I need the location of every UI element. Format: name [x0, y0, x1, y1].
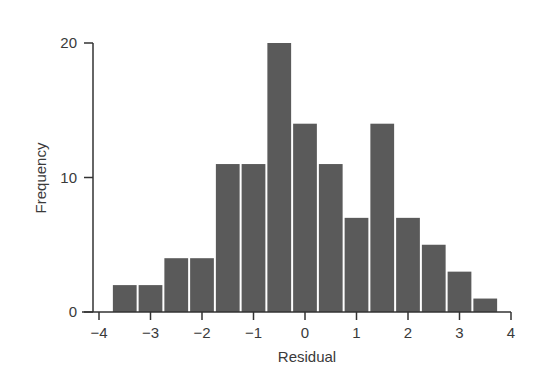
x-axis-title: Residual [278, 348, 336, 365]
x-tick-label: 2 [404, 324, 412, 341]
x-tick-label: 3 [455, 324, 463, 341]
histogram-bar [370, 124, 394, 312]
x-tick-label: −1 [245, 324, 262, 341]
x-tick-label: −4 [90, 324, 107, 341]
histogram-bar [396, 218, 420, 312]
histogram-bar [293, 124, 317, 312]
histogram-bar [216, 164, 240, 312]
histogram-bars [113, 43, 497, 312]
y-axis-title: Frequency [32, 142, 49, 213]
x-tick-label: 1 [352, 324, 360, 341]
histogram-bar [422, 245, 446, 312]
histogram-bar [345, 218, 369, 312]
histogram-bar [319, 164, 343, 312]
x-tick-label: 0 [301, 324, 309, 341]
y-tick-label: 10 [60, 169, 77, 186]
x-tick-label: −2 [193, 324, 210, 341]
histogram-bar [164, 258, 188, 312]
histogram-bar [267, 43, 291, 312]
y-tick-label: 0 [69, 303, 77, 320]
y-ticks: 01020 [60, 34, 93, 320]
histogram-bar [139, 285, 163, 312]
y-tick-label: 20 [60, 34, 77, 51]
histogram-bar [473, 299, 497, 312]
histogram-bar [448, 272, 472, 312]
histogram-chart: 01020 −4−3−2−101234 Residual Frequency [0, 0, 536, 389]
x-tick-label: 4 [507, 324, 515, 341]
histogram-bar [190, 258, 214, 312]
x-tick-label: −3 [142, 324, 159, 341]
histogram-bar [242, 164, 266, 312]
x-ticks: −4−3−2−101234 [90, 312, 515, 341]
histogram-bar [113, 285, 137, 312]
